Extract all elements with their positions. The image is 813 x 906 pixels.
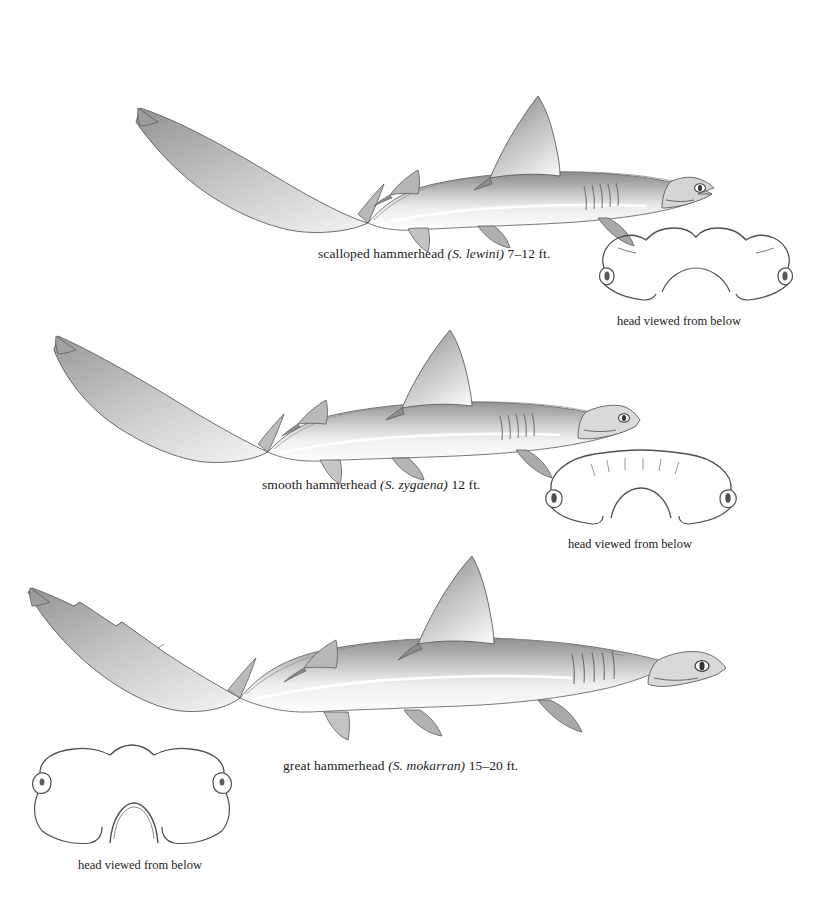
size-great: 15–20 ft. (465, 758, 518, 773)
scientific-name-scalloped: (S. lewini) (448, 246, 505, 261)
shark-illustration-great-hammerhead (18, 548, 738, 748)
scientific-name-smooth: (S. zygaena) (380, 477, 448, 492)
common-name-great: great hammerhead (283, 758, 388, 773)
head-from-below-smooth-hammerhead (533, 446, 749, 532)
illustration-plate: scalloped hammerhead (S. lewini) 7–12 ft… (0, 0, 813, 906)
head-from-below-scalloped-hammerhead (588, 222, 804, 308)
species-label-scalloped-hammerhead: scalloped hammerhead (S. lewini) 7–12 ft… (318, 246, 550, 262)
size-smooth: 12 ft. (448, 477, 481, 492)
common-name-scalloped: scalloped hammerhead (318, 246, 448, 261)
head-from-below-great-hammerhead (18, 735, 250, 853)
head-view-caption-great: head viewed from below (78, 858, 202, 873)
head-view-caption-scalloped: head viewed from below (617, 314, 741, 329)
species-label-great-hammerhead: great hammerhead (S. mokarran) 15–20 ft. (283, 758, 518, 774)
head-view-caption-smooth: head viewed from below (568, 537, 692, 552)
size-scalloped: 7–12 ft. (504, 246, 550, 261)
common-name-smooth: smooth hammerhead (262, 477, 380, 492)
scientific-name-great: (S. mokarran) (388, 758, 465, 773)
species-label-smooth-hammerhead: smooth hammerhead (S. zygaena) 12 ft. (262, 477, 481, 493)
